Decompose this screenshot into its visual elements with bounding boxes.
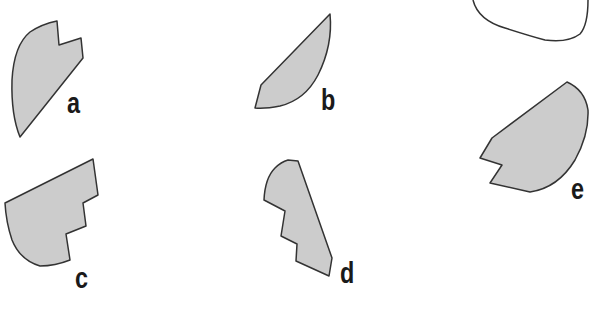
shape-label-d: d	[340, 258, 354, 288]
shape-label-c: c	[75, 263, 88, 293]
shape-c-polygon	[5, 159, 98, 266]
shapes-svg	[0, 0, 592, 309]
shape-b-polygon	[255, 14, 331, 108]
open-outline-shape	[473, 0, 588, 41]
shape-d-polygon	[264, 160, 332, 276]
shape-label-a: a	[67, 88, 80, 118]
shape-label-e: e	[571, 174, 584, 204]
shape-label-b: b	[321, 85, 335, 115]
shape-a-polygon	[12, 21, 83, 137]
diagram-canvas: a b c d e	[0, 0, 592, 309]
